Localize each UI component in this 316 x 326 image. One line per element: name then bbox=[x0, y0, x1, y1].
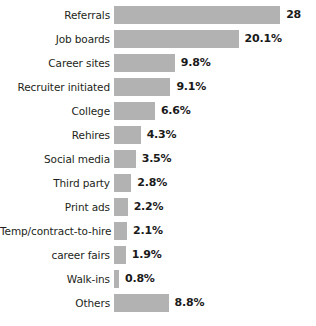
bar bbox=[114, 198, 128, 216]
bar bbox=[114, 174, 131, 192]
category-label: Third party bbox=[0, 171, 114, 195]
bar bbox=[114, 150, 136, 168]
value-label: 28 bbox=[286, 3, 301, 27]
bar-row: Third party2.8% bbox=[0, 171, 316, 195]
bar-row: Social media3.5% bbox=[0, 147, 316, 171]
value-label: 6.6% bbox=[161, 99, 191, 123]
bar-row: Rehires4.3% bbox=[0, 123, 316, 147]
category-label: Career sites bbox=[0, 51, 114, 75]
bar-container: 0.8% bbox=[114, 267, 316, 291]
category-label: Referrals bbox=[0, 3, 114, 27]
category-label: Temp/contract-to-hire bbox=[0, 219, 114, 243]
bar-container: 28 bbox=[114, 3, 316, 27]
bar-container: 2.1% bbox=[114, 219, 316, 243]
bar-row: Recruiter initiated9.1% bbox=[0, 75, 316, 99]
bar-container: 3.5% bbox=[114, 147, 316, 171]
value-label: 9.1% bbox=[176, 75, 206, 99]
category-label: Rehires bbox=[0, 123, 114, 147]
bar bbox=[114, 294, 169, 312]
value-label: 2.2% bbox=[134, 195, 164, 219]
category-label: College bbox=[0, 99, 114, 123]
bar-container: 2.2% bbox=[114, 195, 316, 219]
value-label: 4.3% bbox=[147, 123, 177, 147]
bar-container: 9.8% bbox=[114, 51, 316, 75]
bar bbox=[114, 270, 119, 288]
bar-container: 1.9% bbox=[114, 243, 316, 267]
bar-container: 6.6% bbox=[114, 99, 316, 123]
bar-row: Print ads2.2% bbox=[0, 195, 316, 219]
bar-row: Walk-ins0.8% bbox=[0, 267, 316, 291]
bar-container: 9.1% bbox=[114, 75, 316, 99]
category-label: Job boards bbox=[0, 27, 114, 51]
value-label: 2.1% bbox=[133, 219, 163, 243]
bar-container: 4.3% bbox=[114, 123, 316, 147]
bar bbox=[114, 126, 141, 144]
value-label: 9.8% bbox=[181, 51, 211, 75]
bar bbox=[114, 78, 170, 96]
bar-row: Referrals28 bbox=[0, 3, 316, 27]
bar-row: Others8.8% bbox=[0, 291, 316, 315]
bar bbox=[114, 102, 155, 120]
value-label: 2.8% bbox=[137, 171, 167, 195]
bar-container: 2.8% bbox=[114, 171, 316, 195]
bar bbox=[114, 222, 127, 240]
value-label: 3.5% bbox=[142, 147, 172, 171]
bar bbox=[114, 54, 175, 72]
category-label: Social media bbox=[0, 147, 114, 171]
bar-container: 8.8% bbox=[114, 291, 316, 315]
bar-chart: Referrals28Job boards20.1%Career sites9.… bbox=[0, 0, 316, 326]
bar-row: Career sites9.8% bbox=[0, 51, 316, 75]
bar-row: Temp/contract-to-hire2.1% bbox=[0, 219, 316, 243]
plot-area: Referrals28Job boards20.1%Career sites9.… bbox=[0, 0, 316, 326]
value-label: 0.8% bbox=[125, 267, 155, 291]
category-label: Print ads bbox=[0, 195, 114, 219]
bar-row: College6.6% bbox=[0, 99, 316, 123]
category-label: Recruiter initiated bbox=[0, 75, 114, 99]
category-label: career fairs bbox=[0, 243, 114, 267]
bar bbox=[114, 6, 280, 24]
bar bbox=[114, 246, 126, 264]
value-label: 8.8% bbox=[175, 291, 205, 315]
bar-row: career fairs1.9% bbox=[0, 243, 316, 267]
category-label: Walk-ins bbox=[0, 267, 114, 291]
bar bbox=[114, 30, 239, 48]
bar-row: Job boards20.1% bbox=[0, 27, 316, 51]
value-label: 20.1% bbox=[245, 27, 282, 51]
category-label: Others bbox=[0, 291, 114, 315]
value-label: 1.9% bbox=[132, 243, 162, 267]
bar-container: 20.1% bbox=[114, 27, 316, 51]
